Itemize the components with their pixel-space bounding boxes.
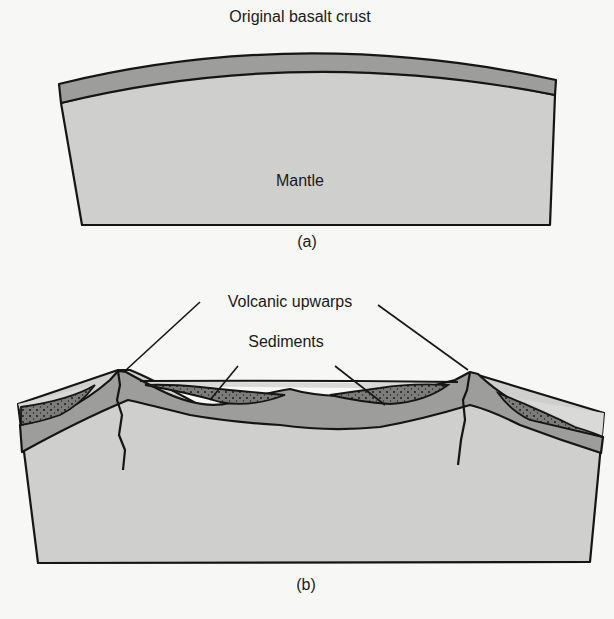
- figure-b: Volcanic upwarps Sediments (b): [18, 293, 604, 593]
- figure-a-caption: (a): [297, 233, 317, 250]
- sediments-label: Sediments: [248, 333, 324, 350]
- volcanic-upwarps-label: Volcanic upwarps: [228, 293, 353, 310]
- original-basalt-crust-label: Original basalt crust: [229, 8, 371, 25]
- volcanic-leader-left: [126, 302, 200, 370]
- volcanic-leader-right: [378, 305, 468, 370]
- figure-a: Original basalt crust Mantle (a): [59, 8, 556, 250]
- mantle-label: Mantle: [276, 172, 324, 189]
- mantle-region-a: [61, 69, 555, 225]
- figure-b-caption: (b): [296, 576, 316, 593]
- diagram-canvas: Original basalt crust Mantle (a): [0, 0, 614, 619]
